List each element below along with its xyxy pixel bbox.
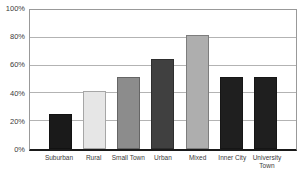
bar-urban [151,59,174,149]
bar-university-town [254,77,277,149]
x-tick-label-small-town: Small Town [111,154,145,169]
y-tick-label-60: 60% [0,61,25,69]
bar-suburban [49,114,72,149]
bar-mixed [186,35,209,149]
y-tick-label-20: 20% [0,118,25,126]
y-tick-label-40: 40% [0,90,25,98]
bar-inner-city [220,77,243,149]
bar-slot-rural [77,10,111,149]
x-tick-label-rural: Rural [77,154,111,169]
x-tick-label-university-town: UniversityTown [250,154,284,169]
x-tick-label-urban: Urban [146,154,180,169]
bar-slot-suburban [43,10,77,149]
bar-slot-inner-city [215,10,249,149]
bars-row [30,10,296,149]
bar-rural [83,91,106,149]
y-tick-label-100: 100% [0,5,25,13]
y-tick-label-0: 0% [0,146,25,154]
bar-slot-mixed [180,10,214,149]
x-axis-labels: SuburbanRuralSmall TownUrbanMixedInner C… [29,154,297,169]
bar-slot-university-town [249,10,283,149]
y-tick-label-80: 80% [0,33,25,41]
x-tick-label-suburban: Suburban [42,154,76,169]
x-tick-label-mixed: Mixed [181,154,215,169]
bar-slot-urban [146,10,180,149]
bar-small-town [117,77,140,149]
x-tick-label-inner-city: Inner City [215,154,249,169]
bar-slot-small-town [112,10,146,149]
bar-chart: 100%80%60%40%20%0% SuburbanRuralSmall To… [0,0,306,171]
